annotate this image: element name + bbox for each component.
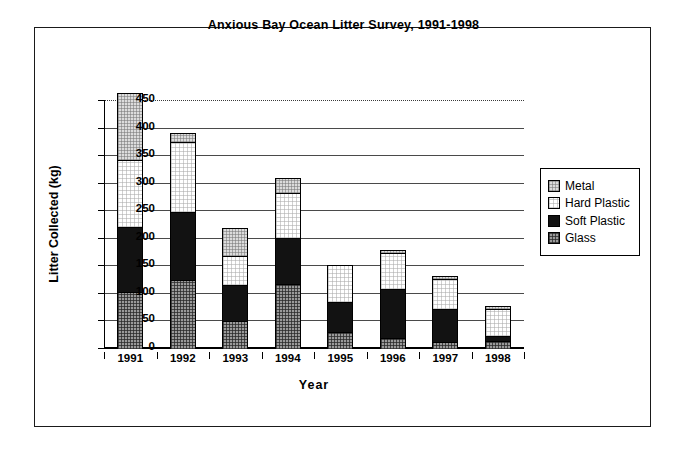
bar-slot [367, 100, 420, 348]
bar-segment-glass [328, 332, 352, 349]
y-tick-mark [98, 348, 104, 349]
bar-segment-hard-plastic [276, 193, 300, 238]
bar-series-group [104, 100, 524, 348]
legend-swatch-metal [548, 180, 560, 192]
bar-slot [314, 100, 367, 348]
y-tick-label: 200 [109, 230, 155, 242]
bar-slot [104, 100, 157, 348]
bar-segment-soft-plastic [171, 212, 195, 280]
bar-segment-hard-plastic [433, 279, 457, 309]
bar-slot [472, 100, 525, 348]
bar-slot [419, 100, 472, 348]
legend-label: Glass [565, 231, 596, 245]
stacked-bar[interactable] [327, 265, 353, 348]
bar-segment-metal [276, 179, 300, 193]
bar-segment-hard-plastic [381, 253, 405, 290]
bar-segment-soft-plastic [433, 309, 457, 342]
y-tick-label: 50 [109, 312, 155, 324]
bar-slot [157, 100, 210, 348]
y-tick-label: 150 [109, 257, 155, 269]
x-tick-mark [104, 352, 105, 359]
stacked-bar[interactable] [275, 178, 301, 348]
x-tick-mark [367, 352, 368, 359]
y-axis-title: Litter Collected (kg) [44, 100, 64, 348]
gridline [104, 348, 524, 349]
x-tick-mark [314, 352, 315, 359]
x-tick-mark [262, 352, 263, 359]
bar-segment-metal [171, 134, 195, 142]
stacked-bar[interactable] [432, 276, 458, 348]
x-tick-mark [419, 352, 420, 359]
y-axis-title-text: Litter Collected (kg) [47, 165, 61, 282]
bar-segment-soft-plastic [223, 285, 247, 322]
bar-segment-glass [223, 321, 247, 349]
bar-segment-glass [171, 280, 195, 349]
x-axis-title: Year [104, 378, 524, 392]
bar-segment-hard-plastic [486, 309, 510, 336]
bar-segment-hard-plastic [118, 160, 142, 227]
stacked-bar[interactable] [485, 306, 511, 348]
bar-segment-hard-plastic [171, 142, 195, 212]
y-tick-label: 450 [109, 92, 155, 104]
y-tick-label: 350 [109, 147, 155, 159]
x-tick-mark [472, 352, 473, 359]
y-tick-label: 250 [109, 202, 155, 214]
stacked-bar[interactable] [222, 228, 248, 348]
x-tick-label: 1995 [314, 352, 367, 372]
x-tick-mark [524, 352, 525, 359]
x-tick-label: 1991 [104, 352, 157, 372]
legend-swatch-hard-plastic [548, 197, 560, 209]
bar-segment-glass [486, 341, 510, 349]
legend-item[interactable]: Hard Plastic [548, 196, 630, 210]
bar-segment-glass [433, 342, 457, 349]
x-tick-mark [209, 352, 210, 359]
legend-label: Hard Plastic [565, 196, 630, 210]
bar-segment-soft-plastic [328, 302, 352, 332]
legend-swatch-glass [548, 232, 560, 244]
x-tick-mark [157, 352, 158, 359]
bar-segment-glass [276, 284, 300, 349]
bar-segment-hard-plastic [328, 266, 352, 302]
y-tick-label: 100 [109, 285, 155, 297]
y-tick-label: 400 [109, 120, 155, 132]
legend-item[interactable]: Soft Plastic [548, 214, 630, 228]
legend-item[interactable]: Glass [548, 231, 630, 245]
stacked-bar[interactable] [380, 250, 406, 348]
legend-label: Metal [565, 179, 594, 193]
chart-title: Anxious Bay Ocean Litter Survey, 1991-19… [0, 18, 687, 32]
bar-segment-glass [381, 338, 405, 349]
legend: MetalHard PlasticSoft PlasticGlass [540, 168, 640, 256]
x-tick-label: 1992 [157, 352, 210, 372]
y-tick-label: 0 [109, 340, 155, 352]
bar-segment-hard-plastic [223, 256, 247, 284]
stacked-bar[interactable] [170, 133, 196, 348]
x-tick-label: 1993 [209, 352, 262, 372]
x-tick-label: 1998 [472, 352, 525, 372]
bar-segment-metal [223, 229, 247, 256]
x-axis-tick-labels: 19911992199319941995199619971998 [104, 352, 524, 372]
plot-area [104, 100, 524, 348]
bar-segment-soft-plastic [381, 289, 405, 337]
x-tick-label: 1996 [367, 352, 420, 372]
x-tick-label: 1997 [419, 352, 472, 372]
legend-swatch-soft-plastic [548, 215, 560, 227]
bar-segment-soft-plastic [276, 238, 300, 284]
x-tick-label: 1994 [262, 352, 315, 372]
legend-item[interactable]: Metal [548, 179, 630, 193]
y-tick-label: 300 [109, 175, 155, 187]
bar-slot [262, 100, 315, 348]
legend-label: Soft Plastic [565, 214, 625, 228]
bar-slot [209, 100, 262, 348]
